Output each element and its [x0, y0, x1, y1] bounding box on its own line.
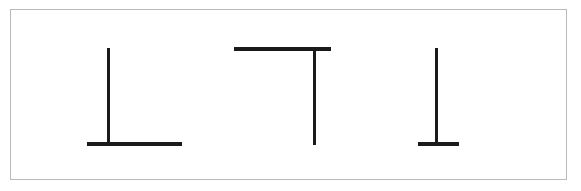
figure-inverted-t-left-offset: [87, 48, 182, 145]
figure-panel: [0, 0, 581, 191]
figure-inverted-t-short-base: [418, 48, 459, 145]
figure-upright-t-right-offset: [234, 48, 331, 145]
line-figure-canvas: [0, 0, 581, 191]
